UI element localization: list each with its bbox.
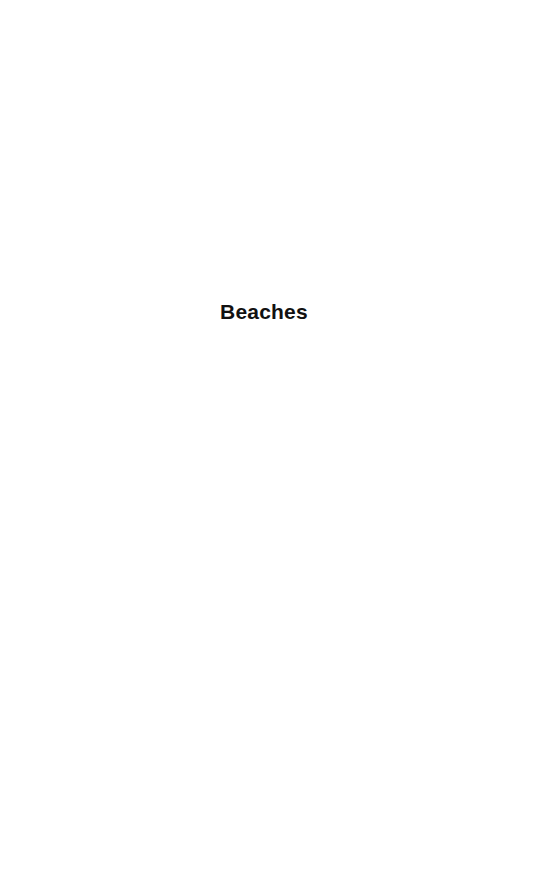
page: Beaches xyxy=(0,0,540,884)
page-title: Beaches xyxy=(0,300,528,324)
